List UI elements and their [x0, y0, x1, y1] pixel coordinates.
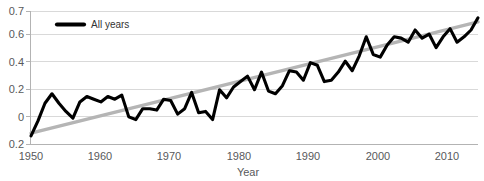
x-tick-label-1950: 1950	[19, 150, 43, 162]
plot-series	[31, 18, 478, 136]
chart-canvas: 0.7 0.6 0.4 0.2 0 0.2 1950 1960 1970 198…	[0, 0, 484, 181]
y-axis-ticks	[26, 11, 30, 144]
legend: All years	[57, 19, 129, 30]
x-tick-label-2010: 2010	[435, 150, 459, 162]
x-tick-label-1990: 1990	[296, 150, 320, 162]
x-tick-label-1980: 1980	[227, 150, 251, 162]
x-tick-label-2000: 2000	[366, 150, 390, 162]
x-axis-title: Year	[237, 166, 260, 178]
y-tick-label-4: 0	[18, 111, 24, 123]
y-tick-label-5: 0.2	[9, 138, 24, 150]
x-axis-tick-labels: 1950 1960 1970 1980 1990 2000 2010	[19, 150, 459, 162]
x-tick-label-1960: 1960	[88, 150, 112, 162]
y-tick-label-2: 0.4	[9, 56, 24, 68]
y-tick-label-1: 0.6	[9, 28, 24, 40]
y-axis-tick-labels: 0.7 0.6 0.4 0.2 0 0.2	[9, 5, 24, 150]
x-tick-label-1970: 1970	[157, 150, 181, 162]
line-chart: 0.7 0.6 0.4 0.2 0 0.2 1950 1960 1970 198…	[0, 0, 484, 181]
y-tick-label-0: 0.7	[9, 5, 24, 17]
y-tick-label-3: 0.2	[9, 83, 24, 95]
legend-label-all-years: All years	[91, 19, 129, 30]
